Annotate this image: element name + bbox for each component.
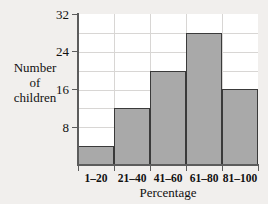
x-axis-tick bbox=[258, 166, 259, 171]
x-axis-tick bbox=[78, 166, 79, 171]
x-axis-tick-label: 1–20 bbox=[76, 172, 116, 184]
y-axis-tick bbox=[72, 127, 78, 128]
y-axis-tick bbox=[72, 89, 78, 90]
x-axis-tick bbox=[150, 166, 151, 171]
y-axis-tick bbox=[72, 51, 78, 52]
y-axis-tick-label: 24 bbox=[43, 44, 69, 60]
bar-3 bbox=[150, 71, 186, 165]
y-axis-tick bbox=[72, 14, 78, 15]
x-axis-line bbox=[77, 164, 259, 166]
y-axis-tick-label: 8 bbox=[43, 120, 69, 136]
gridline-horizontal bbox=[78, 33, 258, 34]
y-axis-title-line-1: Number bbox=[2, 60, 68, 75]
x-axis-tick bbox=[186, 166, 187, 171]
histogram-chart: Number of children 8 16 24 32 1–20 21–40… bbox=[0, 0, 268, 204]
x-axis-tick-label: 61–80 bbox=[184, 172, 224, 184]
x-axis-tick bbox=[114, 166, 115, 171]
x-axis-tick-label: 81–100 bbox=[220, 172, 260, 184]
x-axis-tick-label: 41–60 bbox=[148, 172, 188, 184]
bar-4 bbox=[186, 33, 222, 165]
x-axis-tick bbox=[222, 166, 223, 171]
bar-5 bbox=[222, 89, 258, 165]
plot-area bbox=[78, 14, 258, 165]
y-axis-tick-label: 16 bbox=[43, 82, 69, 98]
y-axis-tick-label: 32 bbox=[43, 7, 69, 23]
bar-1 bbox=[78, 146, 114, 165]
x-axis-tick-label: 21–40 bbox=[112, 172, 152, 184]
x-axis-title: Percentage bbox=[78, 185, 258, 201]
gridline-horizontal bbox=[78, 52, 258, 53]
bar-2 bbox=[114, 108, 150, 165]
